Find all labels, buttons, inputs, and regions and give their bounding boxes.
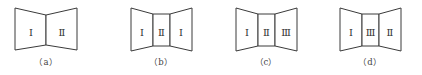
- panel-label: Ⅲ: [281, 27, 291, 38]
- figure-c: ⅠⅡⅢ（c）: [236, 8, 297, 67]
- figure-a: ⅠⅡ（a）: [15, 8, 77, 67]
- figure-caption: （b）: [149, 57, 172, 67]
- panel-label: Ⅱ: [387, 27, 394, 38]
- figure-d: ⅠⅢⅡ（d）: [340, 8, 401, 67]
- figure-caption: （c）: [255, 57, 278, 67]
- panel-label: Ⅱ: [158, 27, 165, 38]
- panel-label: Ⅰ: [245, 27, 249, 38]
- room-layout-diagram: ⅠⅡ（a）ⅠⅡⅠ（b）ⅠⅡⅢ（c）ⅠⅢⅡ（d）: [0, 0, 422, 75]
- panel-label: Ⅰ: [179, 27, 183, 38]
- figure-b: ⅠⅡⅠ（b）: [131, 8, 192, 67]
- panel-label: Ⅲ: [366, 27, 376, 38]
- panel-label: Ⅱ: [59, 27, 66, 38]
- panel-label: Ⅰ: [140, 27, 144, 38]
- figure-caption: （a）: [34, 57, 57, 67]
- panel-label: Ⅰ: [349, 27, 353, 38]
- panel-label: Ⅱ: [263, 27, 270, 38]
- figure-caption: （d）: [358, 57, 381, 67]
- panel-label: Ⅰ: [29, 27, 33, 38]
